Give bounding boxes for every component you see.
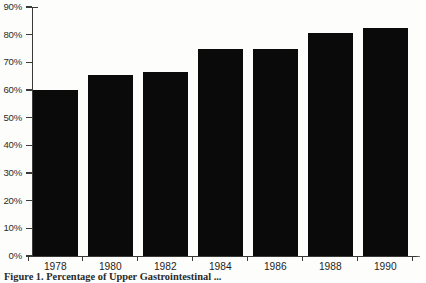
bar bbox=[143, 72, 188, 256]
figure-caption-label: Figure 1. bbox=[4, 271, 44, 282]
y-axis-tick-label: 40% bbox=[0, 140, 22, 150]
y-axis-tick-label: 20% bbox=[0, 196, 22, 206]
x-axis-tick bbox=[192, 256, 193, 261]
bar-series bbox=[33, 0, 418, 256]
x-axis-tick bbox=[28, 256, 29, 261]
y-axis-tick bbox=[26, 228, 32, 229]
y-axis-tick-label: 90% bbox=[0, 2, 22, 12]
y-axis-tick bbox=[26, 172, 32, 173]
x-axis-tick bbox=[412, 256, 413, 261]
x-axis-tick bbox=[82, 256, 83, 261]
figure-caption: Figure 1. Percentage of Upper Gastrointe… bbox=[4, 271, 422, 283]
bar bbox=[363, 28, 408, 256]
x-axis-tick bbox=[357, 256, 358, 261]
figure-caption-text: Percentage of Upper Gastrointestinal ... bbox=[46, 271, 221, 282]
y-axis-tick bbox=[26, 200, 32, 201]
bar bbox=[308, 33, 353, 256]
y-axis-tick-label: 70% bbox=[0, 57, 22, 67]
y-axis-tick-label: 60% bbox=[0, 85, 22, 95]
y-axis-tick bbox=[26, 117, 32, 118]
bar bbox=[33, 90, 78, 256]
bar bbox=[88, 75, 133, 256]
y-axis-tick-label: 50% bbox=[0, 113, 22, 123]
y-axis-tick bbox=[26, 89, 32, 90]
y-axis-tick bbox=[26, 6, 32, 7]
y-axis-tick-label: 80% bbox=[0, 30, 22, 40]
y-axis-tick-label: 30% bbox=[0, 168, 22, 178]
y-axis-tick bbox=[26, 34, 32, 35]
y-axis-tick bbox=[26, 62, 32, 63]
y-axis-tick bbox=[26, 145, 32, 146]
x-axis-tick bbox=[247, 256, 248, 261]
y-axis-tick-label: 0% bbox=[0, 251, 22, 261]
x-axis-tick bbox=[302, 256, 303, 261]
y-axis-tick-label: 10% bbox=[0, 223, 22, 233]
x-axis-tick bbox=[137, 256, 138, 261]
x-axis-line bbox=[32, 256, 420, 257]
bar bbox=[253, 49, 298, 257]
bar bbox=[198, 49, 243, 257]
